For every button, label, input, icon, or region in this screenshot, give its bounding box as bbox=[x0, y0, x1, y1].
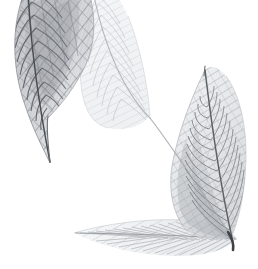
leaf-artwork bbox=[0, 0, 258, 269]
leaf-photograph: Skeleton Leaves translucent leaf skeleto… bbox=[0, 0, 258, 269]
